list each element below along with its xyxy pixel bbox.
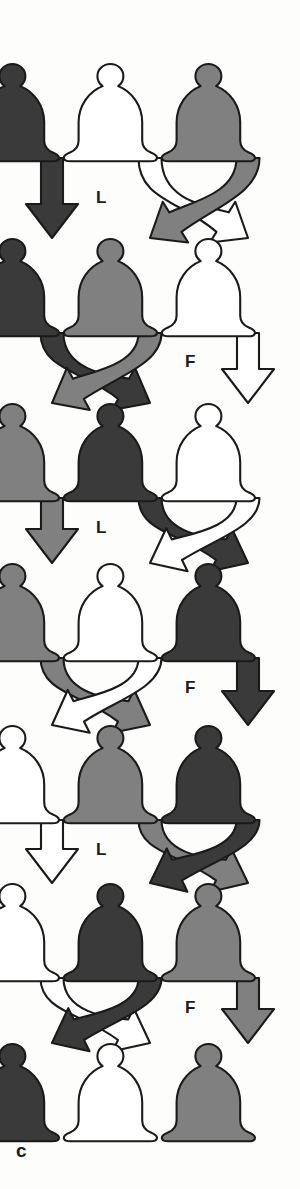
bell-sequence-figure: c LFLFLF [0, 0, 300, 1189]
bell-icon [64, 884, 157, 981]
bell-row [0, 404, 255, 501]
operation-label-f: F [185, 678, 195, 698]
bell-node [0, 1044, 59, 1141]
bell-node [0, 64, 59, 161]
straight-arrow-icon [26, 158, 78, 238]
transition-arrow-group [26, 498, 260, 571]
bell-icon [162, 1044, 255, 1141]
bell-row [0, 239, 255, 336]
bell-node [64, 564, 157, 661]
bell-icon [162, 564, 255, 661]
bell-row [0, 1044, 255, 1141]
straight-arrow-icon [26, 498, 78, 563]
bell-node [64, 64, 157, 161]
operation-label-f: F [185, 998, 195, 1018]
bell-node [0, 564, 59, 661]
bell-icon [64, 64, 157, 161]
operation-label-l: L [96, 840, 106, 860]
bell-node [0, 404, 59, 501]
bell-node [0, 726, 59, 823]
straight-arrow-icon [222, 658, 274, 725]
bell-node [0, 884, 59, 981]
straight-arrow-icon [26, 820, 78, 883]
bell-node [0, 239, 59, 336]
bell-row [0, 726, 255, 823]
bell-icon [0, 564, 59, 661]
bell-row [0, 564, 255, 661]
bell-node [162, 239, 255, 336]
bell-icon [0, 884, 59, 981]
transition-arrow-group [41, 978, 275, 1051]
bell-node [162, 564, 255, 661]
bell-node [64, 404, 157, 501]
bell-icon [162, 884, 255, 981]
bell-row [0, 884, 255, 981]
bell-icon [162, 404, 255, 501]
transition-arrow-group [41, 658, 275, 733]
bell-node [162, 404, 255, 501]
bell-icon [64, 239, 157, 336]
bell-icon [64, 1044, 157, 1141]
operation-label-f: F [185, 352, 195, 372]
bell-icon [162, 64, 255, 161]
panel-label-c: c [16, 1140, 27, 1162]
bell-node [64, 239, 157, 336]
bell-icon [0, 1044, 59, 1141]
bell-icon [64, 726, 157, 823]
bell-node [162, 64, 255, 161]
bell-icon [0, 64, 59, 161]
bell-node [64, 726, 157, 823]
operation-label-l: L [96, 188, 106, 208]
straight-arrow-icon [222, 978, 274, 1043]
transition-arrow-group [41, 333, 275, 410]
transition-arrow-group [26, 158, 260, 242]
bell-icon [64, 564, 157, 661]
bell-row [0, 64, 255, 161]
bell-node [64, 1044, 157, 1141]
transition-arrow-group [26, 820, 260, 892]
bell-icon [0, 404, 59, 501]
bell-node [162, 726, 255, 823]
bell-icon [162, 239, 255, 336]
straight-arrow-icon [222, 333, 274, 403]
bell-node [162, 1044, 255, 1141]
bell-icon [0, 239, 59, 336]
bell-icon [64, 404, 157, 501]
bell-node [162, 884, 255, 981]
bell-node [64, 884, 157, 981]
bell-icon [162, 726, 255, 823]
operation-label-l: L [96, 518, 106, 538]
bell-icon [0, 726, 59, 823]
bell-diagram-canvas [0, 0, 300, 1189]
